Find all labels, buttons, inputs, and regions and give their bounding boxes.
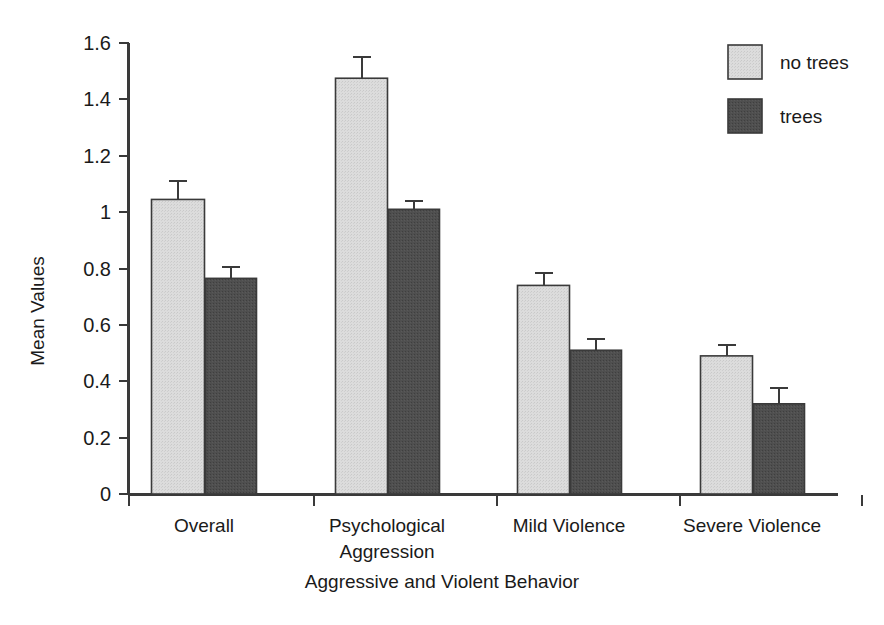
y-tick-label: 1.6 (83, 32, 111, 54)
y-tick-labels: 00.20.40.60.811.21.41.6 (83, 32, 111, 505)
legend-swatch (728, 45, 762, 79)
y-axis-title: Mean Values (27, 256, 48, 366)
bar (518, 285, 570, 494)
x-axis-title: Aggressive and Violent Behavior (305, 571, 580, 592)
y-tick-label: 0.2 (83, 427, 111, 449)
legend-label: trees (780, 106, 822, 127)
legend-label: no trees (780, 52, 849, 73)
bar (206, 278, 257, 494)
y-tick-label: 0.4 (83, 370, 111, 392)
legend-swatch (728, 99, 762, 133)
y-tick-label: 1 (100, 201, 111, 223)
bar (389, 209, 440, 494)
bar (701, 356, 753, 494)
x-category-label: Psychological (329, 515, 445, 536)
y-tick-label: 0.8 (83, 258, 111, 280)
y-tick-label: 0 (100, 483, 111, 505)
x-category-label: Severe Violence (683, 515, 821, 536)
x-category-label: Mild Violence (513, 515, 626, 536)
y-tick-label: 0.6 (83, 314, 111, 336)
bar (152, 199, 205, 494)
x-category-label: Aggression (339, 541, 434, 562)
y-tick-label: 1.4 (83, 88, 111, 110)
bar (571, 350, 622, 494)
y-tick-label: 1.2 (83, 145, 111, 167)
bar (336, 78, 388, 494)
chart-canvas: 00.20.40.60.811.21.41.6 Mean Values Over… (0, 0, 884, 625)
bar (754, 404, 805, 494)
x-category-label: Overall (174, 515, 234, 536)
bar-chart: 00.20.40.60.811.21.41.6 Mean Values Over… (0, 0, 884, 625)
